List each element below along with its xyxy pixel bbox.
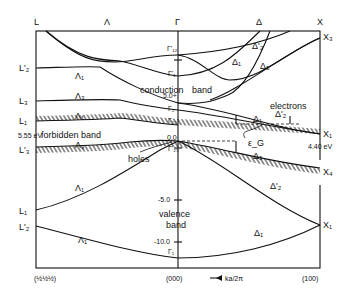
gamma-label-12p: Γ'₁₂ bbox=[167, 45, 177, 52]
bottom-label-ka: ka/2π bbox=[225, 275, 243, 282]
right-label-X4: X₄ bbox=[323, 168, 333, 177]
right-label-X3: X₃ bbox=[323, 33, 333, 42]
holes-label: holes bbox=[128, 155, 150, 164]
right-label-X1: X₁ bbox=[323, 130, 332, 139]
branch-lambda3-a: Λ₃ bbox=[75, 92, 85, 101]
bottom-label-111: (½½½) bbox=[34, 275, 56, 282]
bottom-label-100: (100) bbox=[302, 275, 318, 282]
delta2-prime bbox=[178, 141, 320, 225]
gamma-label-2: Γ₂ bbox=[168, 105, 175, 112]
branch-delta5-b: Δ₅ bbox=[253, 152, 263, 161]
L-gap-annotation: 5.55 eV bbox=[18, 132, 42, 139]
left-label-L3: L₃ bbox=[19, 97, 28, 106]
gap-label: ε_G bbox=[248, 139, 264, 148]
branch-delta1-c: Δ₁ bbox=[254, 229, 263, 238]
right-label-X1-lower: X₁ bbox=[323, 221, 332, 230]
forbidden-band-label: forbidden band bbox=[41, 131, 101, 140]
conduction-band-label: band bbox=[192, 86, 212, 95]
tick-minus5: -5.0 bbox=[158, 196, 170, 203]
branch-lambda1-d: Λ₁ bbox=[78, 236, 87, 245]
valence-band-label: band bbox=[166, 221, 186, 230]
branch-lambda3-b: Λ₃ bbox=[75, 141, 85, 150]
left-label-L2p: L'₂ bbox=[19, 64, 29, 73]
gamma-label-15: Γ₁₅ bbox=[168, 117, 177, 124]
branch-delta1-a: Δ₁ bbox=[232, 58, 241, 67]
branch-delta2p-a: Δ'₂ bbox=[252, 42, 263, 51]
valence-label: valence bbox=[159, 210, 190, 219]
label-Delta: Δ bbox=[256, 18, 262, 27]
gamma-label-1p: Γ'₁ bbox=[168, 70, 176, 77]
gamma-label-1: Γ₁ bbox=[168, 248, 174, 255]
branch-lambda1-b: Λ₁ bbox=[75, 112, 84, 121]
conduction-label: conduction bbox=[140, 86, 184, 95]
gamma-label-25p: Γ'₂₅ bbox=[168, 145, 179, 152]
tick-0: 0.0 bbox=[167, 134, 177, 141]
delta1-lower bbox=[178, 225, 320, 258]
lambda-band-upper bbox=[46, 31, 178, 62]
branch-lambda1-c: Λ₁ bbox=[75, 184, 84, 193]
left-label-L3p: L'₃ bbox=[19, 146, 29, 155]
tick-minus10: -10.0 bbox=[154, 238, 170, 245]
branch-delta5-a: Δ₅ bbox=[260, 62, 270, 71]
bottom-label-000: (000) bbox=[166, 275, 182, 282]
branch-delta2p-b: Δ'₂ bbox=[275, 110, 286, 119]
branch-delta2p-c: Δ'₂ bbox=[270, 182, 281, 191]
left-label-L1: L₁ bbox=[19, 117, 27, 126]
branch-lambda1-a: Λ₁ bbox=[75, 72, 84, 81]
left-label-L1-lower: L₁ bbox=[19, 207, 27, 216]
label-Gamma: Γ bbox=[175, 18, 180, 27]
label-Lambda: Λ bbox=[104, 18, 110, 27]
label-L: L bbox=[34, 18, 39, 27]
branch-delta1-b: Δ₁ bbox=[253, 115, 262, 124]
electrons-label: electrons bbox=[270, 102, 307, 111]
X-gap-annotation: 4.40 eV bbox=[308, 143, 332, 150]
label-X: X bbox=[317, 18, 323, 27]
left-label-L2p-lower: L'₂ bbox=[19, 223, 29, 232]
